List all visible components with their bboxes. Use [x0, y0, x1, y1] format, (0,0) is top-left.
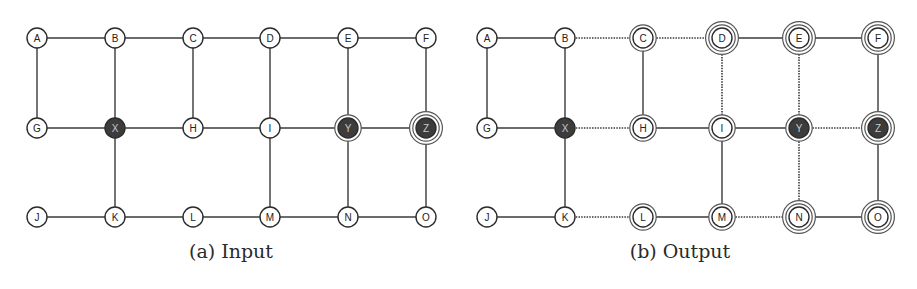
svg-text:K: K [562, 212, 569, 223]
svg-text:Z: Z [875, 123, 881, 134]
node-C: C [630, 25, 656, 51]
caption-input: (a) Input [131, 240, 331, 262]
node-A: A [477, 28, 497, 48]
svg-text:C: C [189, 33, 196, 44]
svg-text:F: F [423, 33, 429, 44]
svg-text:L: L [190, 212, 196, 223]
node-Z: Z [410, 112, 443, 145]
svg-text:I: I [721, 123, 724, 134]
svg-text:Y: Y [345, 123, 352, 134]
output-graph: ABCDEFGXHIYZJKLMNO [477, 22, 894, 234]
svg-text:H: H [189, 123, 196, 134]
node-Z: Z [862, 112, 895, 145]
node-M: M [709, 204, 735, 230]
node-I: I [260, 118, 280, 138]
svg-text:J: J [485, 212, 490, 223]
svg-text:X: X [562, 123, 569, 134]
svg-text:N: N [344, 212, 351, 223]
node-D: D [260, 28, 280, 48]
node-C: C [183, 28, 203, 48]
node-J: J [477, 207, 497, 227]
node-K: K [105, 207, 125, 227]
svg-text:L: L [640, 212, 646, 223]
node-M: M [260, 207, 280, 227]
node-Y: Y [335, 115, 361, 141]
svg-text:Y: Y [796, 123, 803, 134]
node-I: I [709, 115, 735, 141]
svg-text:A: A [34, 33, 41, 44]
svg-text:J: J [35, 212, 40, 223]
svg-text:E: E [345, 33, 352, 44]
node-J: J [27, 207, 47, 227]
node-B: B [105, 28, 125, 48]
output-edges [487, 38, 878, 217]
svg-text:O: O [874, 212, 882, 223]
svg-text:G: G [33, 123, 41, 134]
node-E: E [338, 28, 358, 48]
svg-text:O: O [422, 212, 430, 223]
input-edges [37, 38, 426, 217]
node-F: F [416, 28, 436, 48]
node-N: N [338, 207, 358, 227]
node-X: X [555, 118, 575, 138]
svg-text:M: M [718, 212, 726, 223]
node-H: H [630, 115, 656, 141]
svg-text:F: F [875, 33, 881, 44]
svg-text:E: E [796, 33, 803, 44]
node-G: G [477, 118, 497, 138]
node-E: E [783, 22, 816, 55]
caption-output: (b) Output [580, 240, 780, 262]
node-O: O [416, 207, 436, 227]
node-H: H [183, 118, 203, 138]
node-B: B [555, 28, 575, 48]
node-N: N [783, 201, 816, 234]
input-graph: ABCDEFGXHIYZJKLMNO [27, 28, 442, 227]
svg-text:A: A [484, 33, 491, 44]
node-Y: Y [786, 115, 812, 141]
svg-text:C: C [639, 33, 646, 44]
node-D: D [706, 22, 739, 55]
svg-text:D: D [718, 33, 725, 44]
svg-text:B: B [562, 33, 569, 44]
node-O: O [862, 201, 895, 234]
svg-text:D: D [266, 33, 273, 44]
node-F: F [862, 22, 895, 55]
svg-text:M: M [266, 212, 274, 223]
svg-text:B: B [112, 33, 119, 44]
svg-text:Z: Z [423, 123, 429, 134]
svg-text:G: G [483, 123, 491, 134]
svg-text:N: N [795, 212, 802, 223]
svg-text:X: X [112, 123, 119, 134]
node-A: A [27, 28, 47, 48]
node-G: G [27, 118, 47, 138]
node-X: X [105, 118, 125, 138]
svg-text:H: H [639, 123, 646, 134]
node-K: K [555, 207, 575, 227]
node-L: L [630, 204, 656, 230]
svg-text:I: I [269, 123, 272, 134]
node-L: L [183, 207, 203, 227]
svg-text:K: K [112, 212, 119, 223]
